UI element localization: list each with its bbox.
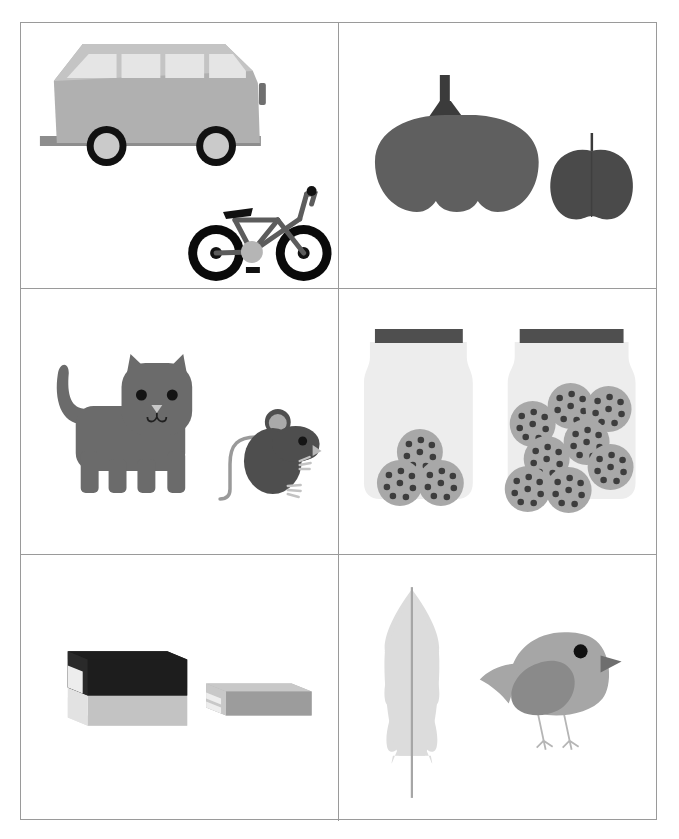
cookie — [376, 460, 422, 506]
van-wheel-rear-hub — [203, 133, 229, 159]
worksheet-page: { "page": { "width": 679, "height": 839,… — [0, 0, 679, 839]
pumpkin-icon — [374, 75, 538, 212]
thick-book-dark-top — [68, 651, 187, 659]
cat-eye-left — [136, 390, 147, 401]
apple-icon — [550, 133, 633, 219]
van-window-4 — [209, 54, 246, 78]
bicycle-pedal — [246, 267, 260, 273]
cat-head — [122, 363, 193, 435]
bird-beak — [600, 655, 621, 672]
bicycle-seat — [223, 208, 253, 219]
feather-bird-cell — [339, 555, 657, 821]
cat-leg-1 — [81, 451, 99, 493]
thin-book-front — [226, 692, 312, 716]
cookie — [545, 467, 591, 513]
picture-grid — [20, 22, 657, 820]
cat-icon — [57, 354, 192, 493]
feather-bird-illustration — [339, 555, 657, 821]
jar-right — [504, 329, 635, 513]
van-window-3 — [165, 54, 204, 78]
mouse-eye — [298, 437, 307, 446]
mouse-icon — [220, 409, 322, 499]
animals-illustration — [21, 289, 338, 554]
thick-book-lower-front — [88, 696, 188, 726]
van-icon — [40, 44, 266, 166]
pumpkin-body — [374, 115, 538, 212]
animals-cell — [21, 289, 339, 555]
bird-eye — [573, 644, 587, 658]
produce-illustration — [339, 23, 657, 288]
bicycle-grip — [307, 186, 317, 196]
cookie-jars-cell — [339, 289, 657, 555]
mouse-back-foot — [288, 485, 301, 497]
vehicles-illustration — [21, 23, 338, 288]
cat-leg-2 — [109, 459, 127, 493]
books-illustration — [21, 555, 338, 821]
cookie — [417, 460, 463, 506]
thick-book-dark-front — [88, 659, 188, 695]
cookie — [504, 466, 550, 512]
vehicles-cell — [21, 23, 339, 289]
jar-left-lid — [374, 329, 462, 343]
bird-icon — [479, 632, 621, 749]
produce-cell — [339, 23, 657, 289]
books-cell — [21, 555, 339, 821]
cookie-jars-illustration — [339, 289, 657, 554]
van-wheel-front-hub — [94, 133, 120, 159]
van-window-2 — [122, 54, 161, 78]
feather-icon — [384, 587, 439, 798]
cat-leg-3 — [137, 459, 155, 493]
thick-book-icon — [68, 651, 187, 725]
cat-eye-right — [167, 390, 178, 401]
bicycle-chainring — [241, 241, 263, 263]
jar-right-lid — [519, 329, 623, 343]
van-mirror — [259, 83, 266, 105]
jar-left — [363, 329, 472, 506]
thin-book-icon — [206, 683, 312, 715]
mouse-head-mass — [272, 426, 320, 462]
cat-leg-4 — [167, 451, 185, 493]
bicycle-icon — [188, 186, 331, 281]
cookie — [587, 444, 633, 490]
